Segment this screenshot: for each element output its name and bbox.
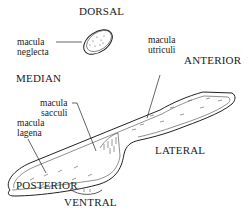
label-posterior: POSTERIOR: [16, 180, 78, 191]
diagram-canvas: DORSAL MEDIAN ANTERIOR LATERAL POSTERIOR…: [0, 0, 249, 211]
label-lateral: LATERAL: [155, 145, 205, 156]
label-macula-utriculi: macula utriculi: [148, 35, 175, 55]
label-macula-neglecta: macula neglecta: [17, 37, 49, 57]
macula-neglecta-shape: [79, 25, 117, 60]
label-median: MEDIAN: [16, 73, 61, 84]
label-macula-lagena: macula lagena: [17, 118, 44, 138]
label-macula-sacculi: macula sacculi: [40, 98, 67, 118]
label-anterior: ANTERIOR: [184, 55, 241, 66]
label-ventral: VENTRAL: [64, 197, 117, 208]
label-dorsal: DORSAL: [79, 6, 124, 17]
